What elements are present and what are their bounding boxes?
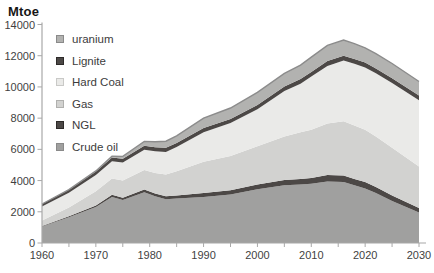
legend-label: Crude oil <box>72 141 118 153</box>
legend-swatch <box>56 143 64 151</box>
legend-label: uranium <box>72 33 114 45</box>
x-tick-label: 1990 <box>191 249 215 261</box>
legend-item-ngl: NGL <box>56 119 124 131</box>
legend-item-hard-coal: Hard Coal <box>56 76 124 88</box>
legend-swatch <box>56 35 64 43</box>
legend-label: Lignite <box>72 55 106 67</box>
y-tick-label: 14000 <box>4 19 35 31</box>
x-tick-label: 2030 <box>407 249 431 261</box>
legend-swatch <box>56 121 64 129</box>
y-tick-label: 12000 <box>4 50 35 62</box>
legend-label: Hard Coal <box>72 76 124 88</box>
y-tick-label: 0 <box>29 237 35 249</box>
legend-swatch <box>56 100 64 108</box>
x-tick-label: 2010 <box>299 249 323 261</box>
legend-item-lignite: Lignite <box>56 55 124 67</box>
legend: uraniumLigniteHard CoalGasNGLCrude oil <box>56 33 124 163</box>
x-tick-label: 2020 <box>353 249 377 261</box>
y-tick-label: 8000 <box>11 112 35 124</box>
x-tick-label: 2000 <box>245 249 269 261</box>
x-tick-label: 1970 <box>84 249 108 261</box>
legend-label: Gas <box>72 98 93 110</box>
legend-swatch <box>56 57 64 65</box>
legend-swatch <box>56 78 64 86</box>
x-tick-label: 1960 <box>30 249 54 261</box>
chart-canvas: 0200040006000800010000120001400019601970… <box>0 0 434 273</box>
legend-item-uranium: uranium <box>56 33 124 45</box>
x-tick-label: 1980 <box>137 249 161 261</box>
legend-item-gas: Gas <box>56 98 124 110</box>
legend-label: NGL <box>72 119 96 131</box>
y-tick-label: 2000 <box>11 206 35 218</box>
y-tick-label: 6000 <box>11 143 35 155</box>
unit-label: Mtoe <box>8 4 39 19</box>
legend-item-crude-oil: Crude oil <box>56 141 124 153</box>
y-tick-label: 10000 <box>4 81 35 93</box>
y-tick-label: 4000 <box>11 175 35 187</box>
